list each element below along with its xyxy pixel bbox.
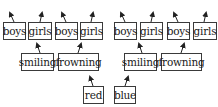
- arrow-icon: [181, 44, 184, 53]
- node-blue: blue: [114, 86, 136, 104]
- arrow-icon: [90, 77, 93, 86]
- arrow-icon: [204, 13, 206, 22]
- node-girls2: girls: [80, 22, 103, 40]
- arrow-icon: [121, 13, 125, 22]
- node-smiling2: smiling: [124, 53, 157, 71]
- arrow-icon: [62, 13, 66, 22]
- arrow-icon: [174, 13, 178, 22]
- node-red: red: [83, 86, 104, 104]
- node-girls4: girls: [193, 22, 217, 40]
- node-boys2: boys: [55, 22, 78, 40]
- arrow-icon: [125, 77, 128, 86]
- arrow-icon: [91, 13, 93, 22]
- node-girls3: girls: [140, 22, 163, 40]
- node-boys1: boys: [3, 22, 26, 40]
- node-smiling1: smiling: [21, 53, 54, 71]
- arrow-icon: [139, 44, 142, 53]
- node-girls1: girls: [28, 22, 52, 40]
- arrow-icon: [151, 13, 153, 22]
- node-boys4: boys: [167, 22, 190, 40]
- arrow-icon: [40, 13, 42, 22]
- node-frowning2: frowning: [161, 53, 202, 71]
- node-boys3: boys: [114, 22, 137, 40]
- arrow-icon: [10, 13, 14, 22]
- arrow-icon: [37, 44, 40, 53]
- arrow-icon: [78, 44, 81, 53]
- node-frowning1: frowning: [58, 53, 99, 71]
